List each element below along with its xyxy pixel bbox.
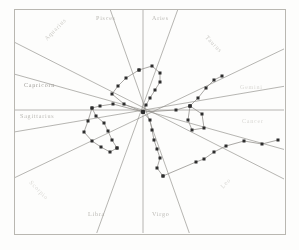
data-point-marker — [116, 147, 119, 150]
data-point-marker — [213, 79, 216, 82]
data-point-marker — [175, 109, 178, 112]
data-point-marker — [138, 69, 141, 72]
data-point-marker — [109, 151, 112, 154]
data-point-marker — [156, 148, 159, 151]
data-point-marker — [91, 140, 94, 143]
data-point-marker — [123, 103, 126, 106]
data-point-marker — [87, 120, 90, 123]
data-point-marker — [112, 103, 115, 106]
data-point-marker — [203, 158, 206, 161]
data-point-marker — [261, 143, 264, 146]
scanned-chart-figure: PiscesAriesAquariusTaurusCapricornGemini… — [0, 0, 299, 250]
data-point-marker — [243, 140, 246, 143]
data-point-marker — [149, 119, 152, 122]
data-point-marker — [191, 129, 194, 132]
data-point-marker — [100, 146, 103, 149]
data-point-marker — [117, 85, 120, 88]
data-point-marker — [111, 139, 114, 142]
cusp-aquarius-leo — [14, 42, 286, 180]
data-point-marker — [197, 97, 200, 100]
data-point-marker — [159, 72, 162, 75]
zodiac-label-aries: Aries — [152, 16, 169, 22]
zodiac-label-capricorn: Capricorn — [24, 83, 55, 89]
data-point-marker — [151, 129, 154, 132]
data-point-marker — [156, 167, 159, 170]
data-point-marker — [107, 130, 110, 133]
cusp-taurus-scorpio — [14, 48, 286, 178]
data-point-marker — [159, 157, 162, 160]
data-point-marker — [145, 104, 148, 107]
cusp-gemini-sagit — [14, 86, 286, 132]
data-point-marker — [162, 175, 165, 178]
upper-loop-path — [139, 66, 160, 112]
right-upper-curve — [143, 76, 222, 112]
data-point-marker — [213, 151, 216, 154]
data-point-marker — [187, 119, 190, 122]
data-point-marker — [149, 97, 152, 100]
data-point-marker — [83, 131, 86, 134]
data-point-marker — [205, 87, 208, 90]
data-point-marker — [159, 81, 162, 84]
zodiac-label-libra: Libra — [88, 212, 105, 218]
data-point-marker — [111, 93, 114, 96]
upper-left-path — [112, 70, 143, 112]
data-point-marker — [151, 65, 154, 68]
data-point-marker — [103, 122, 106, 125]
data-point-marker — [189, 105, 192, 108]
zodiac-label-pisces: Pisces — [96, 16, 116, 22]
data-point-marker — [225, 145, 228, 148]
data-point-marker — [203, 127, 206, 130]
data-point-marker — [195, 161, 198, 164]
data-point-marker — [91, 107, 94, 110]
zodiac-label-sagittarius: Sagittarius — [20, 114, 54, 120]
chart-center-point — [141, 110, 145, 114]
data-point-marker — [154, 89, 157, 92]
data-point-marker — [153, 139, 156, 142]
lower-centre-path — [143, 112, 163, 176]
data-point-marker — [99, 105, 102, 108]
left-outer-path — [84, 108, 117, 152]
data-point-marker — [277, 139, 280, 142]
data-point-marker — [125, 77, 128, 80]
data-point-marker — [221, 75, 224, 78]
data-point-marker — [95, 115, 98, 118]
cusp-aries-libra — [96, 9, 178, 235]
zodiac-label-gemini: Gemini — [240, 85, 263, 91]
zodiac-label-virgo: Virgo — [152, 212, 170, 218]
data-point-marker — [201, 113, 204, 116]
zodiac-label-cancer: Cancer — [242, 119, 264, 125]
